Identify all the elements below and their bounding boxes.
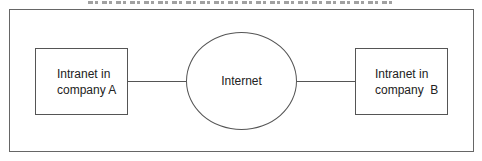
connector-a-internet xyxy=(128,81,186,82)
diagram-title-clipped xyxy=(88,0,394,5)
node-label-line: company A xyxy=(57,82,127,98)
node-internet: Internet xyxy=(186,32,297,130)
connector-internet-b xyxy=(297,81,355,82)
node-label-line: Intranet in xyxy=(375,66,447,82)
node-intranet-company-a: Intranet in company A xyxy=(35,48,128,115)
node-label: Internet xyxy=(221,74,262,88)
node-intranet-company-b: Intranet in company B xyxy=(355,48,448,115)
node-label-line: company B xyxy=(375,82,447,98)
clipped-title-glyphs xyxy=(88,1,394,4)
node-label-line: Intranet in xyxy=(57,66,127,82)
